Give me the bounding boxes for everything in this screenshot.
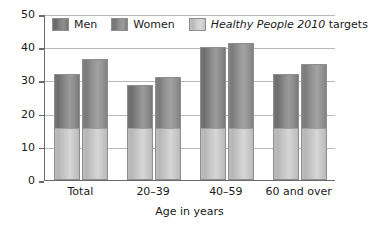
bar-women-20-39 [155,77,181,180]
legend-swatch-men-icon [52,18,69,31]
legend-item-women: Women [111,18,174,31]
target-band [156,128,180,179]
target-band [229,128,253,179]
legend-label-women: Women [133,18,174,31]
x-tick-label: 60 and over [262,185,335,198]
target-band [55,128,79,179]
y-tick-label: 0 [28,175,35,187]
gridline-50 [45,15,335,16]
target-band [128,128,152,179]
y-tick-label: 20 [21,109,35,121]
chart-legend: Men Women Healthy People 2010 targets [52,18,373,31]
y-tick-label: 40 [21,42,35,54]
target-band [302,128,326,179]
bar-men-total [54,74,80,180]
y-tick-label: 50 [21,9,35,21]
x-axis-title: Age in years [44,205,335,218]
bar-men-40-59 [200,47,226,180]
y-axis: 50 40 30 20 10 0 [0,15,44,181]
x-tick-label: 20–39 [117,185,190,198]
bar-men-60-and-over [273,74,299,180]
bar-women-60-and-over [301,64,327,180]
legend-item-men: Men [52,18,97,31]
target-band [201,128,225,179]
y-tick-label: 30 [21,75,35,87]
y-tick-label: 10 [21,142,35,154]
x-axis: Total20–3940–5960 and over [44,185,335,201]
legend-swatch-women-icon [111,18,128,31]
bar-women-total [82,59,108,180]
gridline-40 [45,48,335,49]
legend-label-men: Men [74,18,97,31]
legend-swatch-target-icon [189,18,206,31]
target-band [274,128,298,179]
legend-label-target: Healthy People 2010 targets [211,18,368,31]
legend-label-target-plain: targets [325,18,368,31]
bar-women-40-59 [228,43,254,180]
legend-item-target: Healthy People 2010 targets [189,18,368,31]
bar-men-20-39 [127,85,153,180]
y-tick-mark [39,181,44,183]
x-tick-label: Total [44,185,117,198]
target-band [83,128,107,179]
legend-label-target-italic: Healthy People 2010 [211,18,326,31]
x-tick-label: 40–59 [190,185,263,198]
plot-area [44,15,335,181]
